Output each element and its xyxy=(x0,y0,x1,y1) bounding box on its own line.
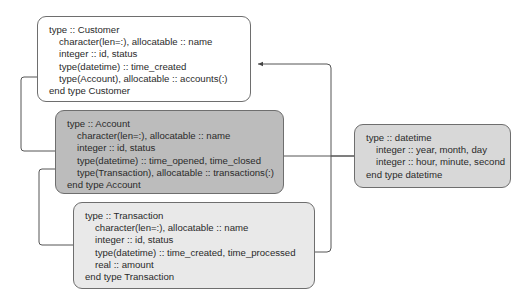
field-amount: real :: amount xyxy=(85,259,314,271)
field-transactions: type(Transaction), allocatable :: transa… xyxy=(67,167,283,179)
field-date: integer :: year, month, day xyxy=(366,144,510,156)
field-name: character(len=:), allocatable :: name xyxy=(49,36,250,48)
type-box-transaction: type :: Transaction character(len=:), al… xyxy=(73,202,315,289)
field-id-status: integer :: id, status xyxy=(85,234,314,246)
field-accounts: type(Account), allocatable :: accounts(:… xyxy=(49,73,250,85)
field-time-opened-closed: type(datetime) :: time_opened, time_clos… xyxy=(67,155,283,167)
field-name: character(len=:), allocatable :: name xyxy=(85,222,314,234)
type-footer: end type Customer xyxy=(49,85,250,97)
type-box-datetime: type :: datetime integer :: year, month,… xyxy=(354,124,511,188)
type-header: type :: Customer xyxy=(49,24,250,36)
type-footer: end type Transaction xyxy=(85,271,314,283)
field-id-status: integer :: id, status xyxy=(49,48,250,60)
type-footer: end type Account xyxy=(67,179,283,191)
type-header: type :: datetime xyxy=(366,132,510,144)
field-time: integer :: hour, minute, second xyxy=(366,156,510,168)
type-header: type :: Account xyxy=(67,118,283,130)
field-id-status: integer :: id, status xyxy=(67,142,283,154)
field-name: character(len=:), allocatable :: name xyxy=(67,130,283,142)
field-time-created-processed: type(datetime) :: time_created, time_pro… xyxy=(85,247,314,259)
field-time-created: type(datetime) :: time_created xyxy=(49,61,250,73)
type-box-account: type :: Account character(len=:), alloca… xyxy=(55,110,284,194)
type-box-customer: type :: Customer character(len=:), alloc… xyxy=(37,16,251,102)
type-footer: end type datetime xyxy=(366,169,510,181)
type-header: type :: Transaction xyxy=(85,210,314,222)
